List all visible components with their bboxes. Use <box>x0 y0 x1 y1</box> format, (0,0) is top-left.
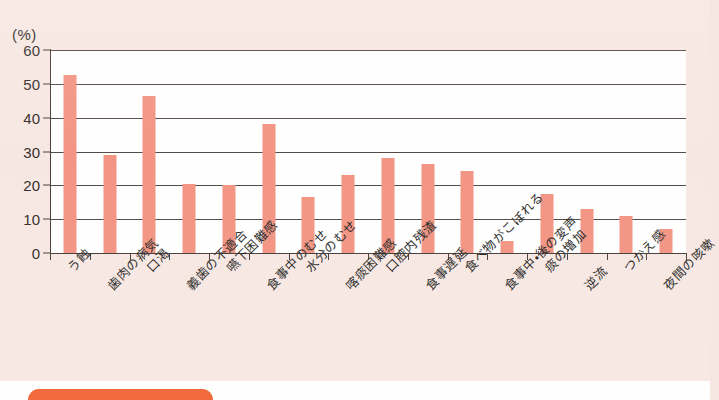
y-tick-label-10: 10 <box>6 211 40 228</box>
gridline-50 <box>50 84 686 85</box>
y-tick-label-30: 30 <box>6 143 40 160</box>
y-tick-label-20: 20 <box>6 177 40 194</box>
y-tick-label-50: 50 <box>6 75 40 92</box>
y-tick-mark-60 <box>43 50 50 51</box>
bar <box>183 184 196 253</box>
y-axis-line <box>50 49 51 255</box>
x-axis-label: 逆流 <box>579 261 611 293</box>
bar <box>461 171 474 253</box>
bar <box>143 96 156 253</box>
y-tick-mark-40 <box>43 117 50 118</box>
y-tick-label-60: 60 <box>6 42 40 59</box>
y-tick-label-40: 40 <box>6 109 40 126</box>
chart-figure: (%) 0102030405060 う蝕歯肉の病気口渇義歯の不適合嚥下困難感食事… <box>0 0 710 381</box>
caption-strip <box>0 381 710 400</box>
x-tick-mark <box>50 253 51 260</box>
bar <box>103 155 116 253</box>
bar <box>63 75 76 253</box>
y-tick-mark-20 <box>43 185 50 186</box>
x-tick-mark <box>607 253 608 260</box>
gridline-60 <box>50 50 686 51</box>
y-tick-mark-0 <box>43 253 50 254</box>
y-axis-unit-label: (%) <box>12 26 37 43</box>
y-tick-label-0: 0 <box>6 245 40 262</box>
y-tick-mark-10 <box>43 219 50 220</box>
caption-badge <box>28 389 213 400</box>
y-tick-mark-30 <box>43 151 50 152</box>
y-tick-mark-50 <box>43 83 50 84</box>
